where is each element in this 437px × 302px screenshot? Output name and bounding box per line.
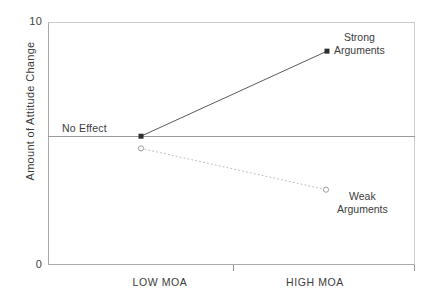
weak-annotation-line1: Weak (337, 190, 388, 203)
x-axis-tick-mid (233, 265, 234, 271)
weak-arguments-annotation: Weak Arguments (337, 190, 388, 216)
strong-annotation-line1: Strong (334, 31, 385, 44)
x-axis-label-low-moa: LOW MOA (90, 276, 230, 288)
plot-area-frame (48, 22, 415, 265)
no-effect-label: No Effect (62, 122, 107, 134)
weak-annotation-line2: Arguments (337, 203, 388, 216)
strong-annotation-line2: Arguments (334, 44, 385, 57)
no-effect-reference-line (48, 136, 415, 137)
strong-arguments-annotation: Strong Arguments (334, 31, 385, 57)
x-axis-tick-right (414, 265, 415, 271)
attitude-change-chart: 10 0 Amount of Attitude Change No Effect… (0, 0, 437, 302)
y-axis-tick-bottom: 0 (8, 258, 42, 270)
y-axis-title: Amount of Attitude Change (24, 21, 36, 201)
x-axis-label-high-moa: HIGH MOA (240, 276, 390, 288)
